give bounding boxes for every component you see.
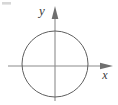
figure-container: y x	[0, 0, 118, 105]
scan-artifact-mark	[2, 2, 11, 5]
coordinate-plane-figure: y x	[0, 0, 118, 105]
x-axis-label: x	[101, 68, 108, 82]
y-axis-label: y	[37, 3, 45, 18]
y-axis-arrowhead-icon	[52, 6, 59, 19]
